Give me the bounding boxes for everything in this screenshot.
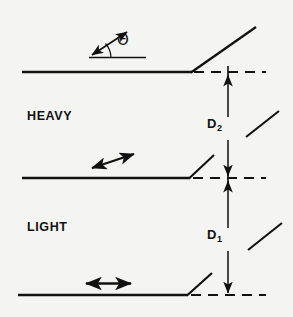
dimension-label-d2: D2 [207,117,222,133]
bottom-interface-slope [187,273,212,296]
bottom-interface-line [18,273,266,296]
top-interface-slope [191,27,256,73]
dimension-label-d1-subscript: 1 [216,234,222,244]
dimension-label-d1: D1 [207,228,222,244]
upper-right-slope-segment [246,111,279,137]
region-label-heavy: HEAVY [27,110,72,123]
dimension-label-d2-subscript: 2 [216,123,222,133]
dimension-label-d1-symbol: D [207,227,216,242]
region-label-light: LIGHT [27,221,68,234]
lower-right-slope-segment [248,223,282,250]
figure-canvas: Θ HEAVY LIGHT D2 D1 [0,0,293,317]
middle-interface-slope [189,155,214,179]
diagram-svg [0,0,293,317]
middle-interface-line [22,155,266,179]
theta-label: Θ [117,33,129,48]
diagonal-motion-arrow [92,154,134,168]
dimension-label-d2-symbol: D [207,116,216,131]
top-interface-line [22,27,266,73]
